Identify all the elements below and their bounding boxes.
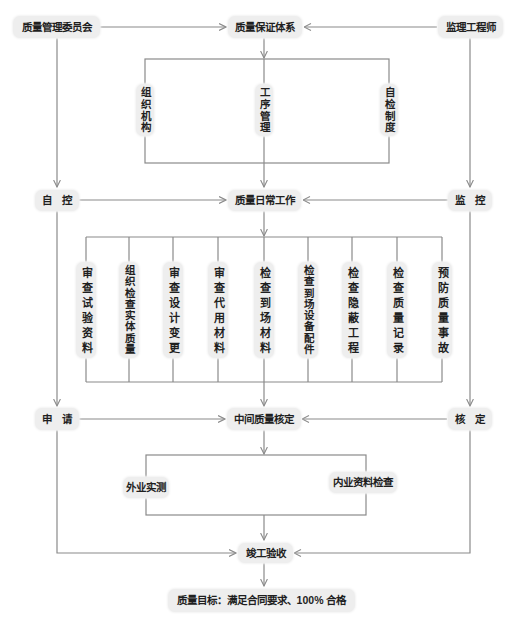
node-label: 自检制度 xyxy=(384,86,395,134)
node-quality-goal: 质量目标：满足合同要求、100% 合格 xyxy=(168,589,355,612)
node-label: 审查代用材料 xyxy=(213,263,224,357)
node-daily-quality-work: 质量日常工作 xyxy=(228,190,301,211)
node-self-inspection-system: 自检制度 xyxy=(380,84,398,136)
node-label: 工序管理 xyxy=(259,86,270,134)
node-organization: 组织机构 xyxy=(136,84,154,136)
node-task: 组织检查实体质量 xyxy=(119,262,139,358)
node-quality-committee: 质量管理委员会 xyxy=(13,16,100,38)
node-completion-acceptance: 竣工验收 xyxy=(238,543,293,563)
node-approval: 核 定 xyxy=(448,408,492,430)
node-process-management: 工序管理 xyxy=(255,84,273,136)
node-label: 组织检查实体质量 xyxy=(124,265,135,356)
node-label: 审查设计变更 xyxy=(168,263,179,357)
node-label: 检查到场材料 xyxy=(259,263,270,357)
node-application: 申 请 xyxy=(35,408,79,430)
quality-assurance-flowchart: 质量管理委员会 质量保证体系 监理工程师 组织机构 工序管理 自检制度 自 控 … xyxy=(0,0,512,619)
node-task: 检查到场材料 xyxy=(254,262,274,358)
node-field-measurement: 外业实测 xyxy=(123,477,169,498)
node-task: 检查到场设备配件 xyxy=(298,262,318,358)
node-monitoring: 监 控 xyxy=(448,190,492,211)
node-task: 审查设计变更 xyxy=(163,262,183,358)
node-task: 检查质量记录 xyxy=(387,262,407,358)
node-label: 预防质量事故 xyxy=(437,263,448,357)
node-label: 检查到场设备配件 xyxy=(303,265,314,356)
node-task: 检查隐蔽工程 xyxy=(342,262,362,358)
node-quality-assurance-system: 质量保证体系 xyxy=(228,16,302,38)
node-document-inspection: 内业资料检查 xyxy=(329,472,397,493)
node-label: 检查隐蔽工程 xyxy=(347,263,358,357)
node-supervising-engineer: 监理工程师 xyxy=(438,16,503,38)
node-self-control: 自 控 xyxy=(35,190,79,211)
node-task: 预防质量事故 xyxy=(432,262,452,358)
node-interim-quality-check: 中间质量核定 xyxy=(227,408,301,430)
node-task: 审查代用材料 xyxy=(208,262,228,358)
node-label: 检查质量记录 xyxy=(392,263,403,357)
node-label: 审查试验资料 xyxy=(81,263,92,357)
node-task: 审查试验资料 xyxy=(76,262,96,358)
node-label: 组织机构 xyxy=(140,86,151,134)
